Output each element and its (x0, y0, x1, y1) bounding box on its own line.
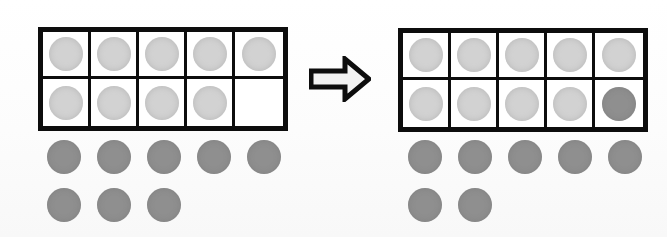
frame-cell-before-1 (43, 32, 91, 79)
frame-cell-before-5 (235, 32, 283, 79)
frame-cell-after-1 (403, 33, 451, 80)
counter-light (602, 38, 636, 72)
frame-cell-after-8 (499, 80, 547, 127)
counter-light (145, 86, 179, 120)
counter-light (553, 87, 587, 121)
counter-light (193, 86, 227, 120)
frame-cell-before-2 (91, 32, 139, 79)
counter-light (457, 87, 491, 121)
counter-dark (247, 140, 281, 174)
frame-cell-after-4 (547, 33, 595, 80)
counter-light (505, 38, 539, 72)
frame-cell-after-5 (595, 33, 643, 80)
loose-counter-row-before-1 (47, 140, 297, 174)
frame-cell-before-7 (91, 79, 139, 126)
frame-cell-before-3 (139, 32, 187, 79)
counter-dark (558, 140, 592, 174)
frame-cell-after-7 (451, 80, 499, 127)
counter-dark (97, 188, 131, 222)
counter-dark (608, 140, 642, 174)
counter-dark (197, 140, 231, 174)
worksheet-canvas (0, 0, 667, 237)
counter-dark (147, 188, 181, 222)
frame-cell-after-10-filled (595, 80, 643, 127)
frame-cell-after-9 (547, 80, 595, 127)
ten-frame-after (398, 28, 648, 132)
frame-cell-before-9 (187, 79, 235, 126)
counter-dark (458, 140, 492, 174)
frame-cell-before-4 (187, 32, 235, 79)
counter-dark (147, 140, 181, 174)
counter-dark (458, 188, 492, 222)
counter-light (409, 87, 443, 121)
counter-dark (47, 188, 81, 222)
frame-cell-before-6 (43, 79, 91, 126)
counter-light (49, 37, 83, 71)
ten-frame-before (38, 27, 288, 131)
counter-light (553, 38, 587, 72)
counter-light (457, 38, 491, 72)
counter-light (97, 37, 131, 71)
counter-light (505, 87, 539, 121)
loose-counter-row-before-2 (47, 188, 197, 222)
counter-dark (408, 188, 442, 222)
counter-light (242, 37, 276, 71)
loose-counter-row-after-1 (408, 140, 658, 174)
counter-light (193, 37, 227, 71)
counter-light (409, 38, 443, 72)
loose-counter-row-after-2 (408, 188, 508, 222)
right-arrow-icon (309, 56, 371, 102)
frame-cell-after-3 (499, 33, 547, 80)
counter-light (145, 37, 179, 71)
counter-light (97, 86, 131, 120)
counter-dark-moved (602, 87, 636, 121)
frame-cell-after-6 (403, 80, 451, 127)
counter-light (49, 86, 83, 120)
counter-dark (47, 140, 81, 174)
frame-cell-before-8 (139, 79, 187, 126)
counter-dark (508, 140, 542, 174)
counter-dark (97, 140, 131, 174)
frame-cell-before-10-empty (235, 79, 283, 126)
counter-dark (408, 140, 442, 174)
frame-cell-after-2 (451, 33, 499, 80)
